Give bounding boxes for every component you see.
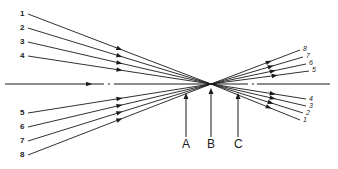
- plane-label-a: A: [182, 138, 190, 150]
- outgoing-ray-arrow-icon: [265, 59, 272, 65]
- left-ray-label-8: 8: [20, 151, 24, 159]
- ray-diagram-canvas: [0, 0, 338, 169]
- incoming-ray-arrow-icon: [116, 53, 123, 59]
- incoming-ray-arrow-icon: [116, 46, 123, 52]
- outgoing-ray-arrow-icon: [265, 104, 272, 110]
- incoming-ray-arrow-icon: [116, 110, 123, 116]
- left-ray-label-6: 6: [20, 123, 24, 131]
- outgoing-ray-1: [211, 84, 300, 120]
- right-ray-label-6: 6: [309, 59, 313, 66]
- ray-diagram: 1 2 3 4 5 6 7 8 8 7 6 5 4 3 2 1 A B C: [0, 0, 338, 169]
- left-ray-label-5: 5: [20, 109, 24, 117]
- outgoing-ray-arrow-icon: [269, 95, 276, 101]
- outgoing-ray-arrow-icon: [267, 100, 274, 106]
- outgoing-ray-5: [211, 71, 309, 84]
- right-ray-label-5: 5: [312, 66, 316, 73]
- incoming-ray-arrow-icon: [116, 60, 123, 66]
- outgoing-ray-3: [211, 84, 306, 106]
- outgoing-ray-arrow-icon: [267, 63, 274, 69]
- outgoing-ray-4: [211, 84, 306, 99]
- outgoing-ray-8: [211, 50, 300, 84]
- right-ray-label-4: 4: [309, 95, 313, 102]
- plane-arrows: [184, 88, 241, 137]
- right-ray-label-7: 7: [306, 52, 310, 59]
- incoming-ray-arrow-icon: [116, 103, 123, 109]
- plane-label-c: C: [234, 138, 243, 150]
- outgoing-ray-arrow-icon: [269, 68, 276, 74]
- outgoing-ray-7: [211, 57, 303, 84]
- left-ray-label-2: 2: [20, 24, 24, 32]
- optical-axis: [5, 82, 330, 86]
- arrow-up-icon: [209, 88, 214, 94]
- right-ray-label-3: 3: [309, 102, 313, 109]
- plane-label-b: B: [207, 138, 215, 150]
- left-ray-label-7: 7: [20, 137, 24, 145]
- outgoing-ray-2: [211, 84, 303, 113]
- left-ray-label-3: 3: [20, 38, 24, 46]
- incoming-ray-arrow-icon: [116, 116, 123, 122]
- axis-arrow-icon: [86, 82, 92, 86]
- right-ray-label-2: 2: [306, 109, 310, 116]
- left-ray-label-4: 4: [20, 52, 24, 60]
- left-ray-label-1: 1: [20, 10, 24, 18]
- outgoing-ray-6: [211, 64, 306, 84]
- right-ray-label-1: 1: [303, 116, 307, 123]
- right-ray-label-8: 8: [303, 45, 307, 52]
